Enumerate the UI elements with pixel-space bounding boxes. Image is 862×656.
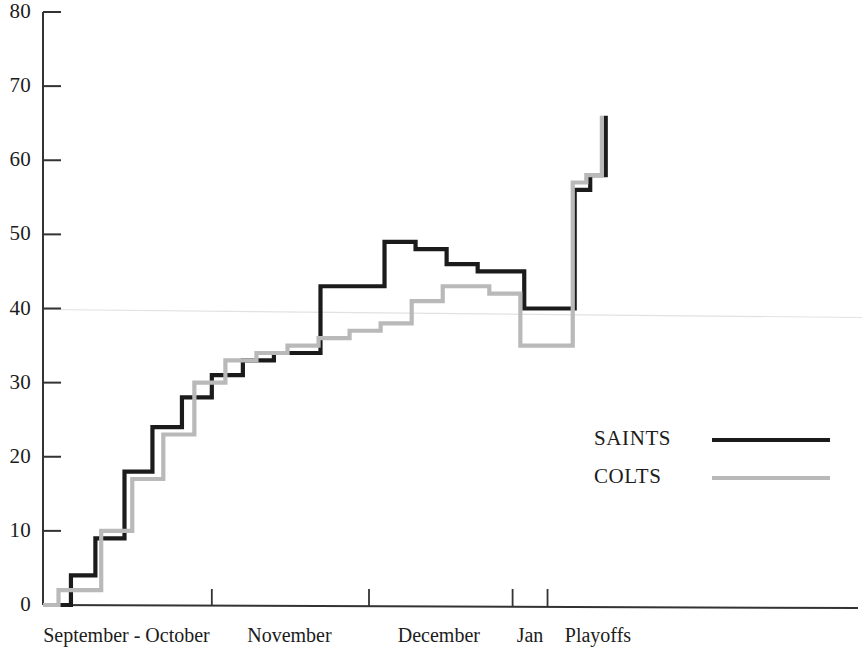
y-tick-label-50: 50 [0, 221, 31, 246]
gridlines [43, 310, 862, 318]
y-axis-ticks [43, 12, 61, 531]
y-tick-label-30: 30 [0, 370, 31, 395]
x-section-label-4: Playoffs [448, 624, 748, 647]
step-chart-figure: 01020304050607080 September - OctoberNov… [0, 0, 862, 656]
x-axis-line [43, 605, 858, 608]
y-tick-label-60: 60 [0, 147, 31, 172]
y-tick-label-0: 0 [0, 592, 31, 617]
y-tick-label-10: 10 [0, 518, 31, 543]
y-tick-label-80: 80 [0, 0, 31, 24]
legend-label-colts: COLTS [594, 464, 662, 489]
y-tick-label-40: 40 [0, 296, 31, 321]
legend-label-saints: SAINTS [594, 426, 671, 451]
y-tick-label-20: 20 [0, 444, 31, 469]
y-tick-label-70: 70 [0, 73, 31, 98]
legend-swatches [712, 440, 830, 478]
axis-lines [43, 12, 858, 608]
data-series [43, 116, 606, 605]
chart-plot-area [0, 0, 862, 656]
gridline-40 [43, 310, 862, 318]
series-line-colts [43, 116, 602, 605]
x-axis-ticks [212, 589, 548, 606]
